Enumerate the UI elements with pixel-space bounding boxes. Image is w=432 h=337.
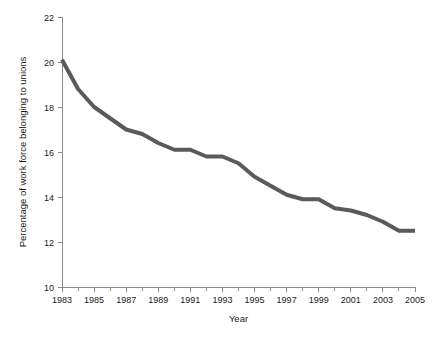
x-axis-tick-label: 2003 <box>373 295 393 305</box>
y-axis-tick-label: 12 <box>44 238 54 248</box>
x-axis-tick-label: 1985 <box>84 295 104 305</box>
x-axis-tick-label: 1995 <box>245 295 265 305</box>
y-axis-tick-label: 20 <box>44 58 54 68</box>
x-axis-tick-label: 1983 <box>52 295 72 305</box>
x-axis-title: Year <box>229 313 248 324</box>
x-axis-tick-label: 1989 <box>148 295 168 305</box>
x-axis-tick-label: 2001 <box>341 295 361 305</box>
chart-background <box>0 0 432 337</box>
x-axis-tick-label: 1999 <box>309 295 329 305</box>
y-axis-tick-label: 16 <box>44 148 54 158</box>
x-axis-tick-label: 1987 <box>116 295 136 305</box>
x-axis-tick-label: 2005 <box>405 295 425 305</box>
union-membership-line-chart: 10121416182022 1983198519871989199119931… <box>0 0 432 337</box>
x-axis-tick-label: 1993 <box>212 295 232 305</box>
y-axis-tick-label: 10 <box>44 283 54 293</box>
y-axis-tick-label: 14 <box>44 193 54 203</box>
y-axis-tick-label: 22 <box>44 13 54 23</box>
y-axis-title: Percentage of work force belonging to un… <box>17 56 28 247</box>
y-axis-tick-label: 18 <box>44 103 54 113</box>
x-axis-tick-label: 1997 <box>277 295 297 305</box>
chart-canvas: 10121416182022 1983198519871989199119931… <box>0 0 432 337</box>
x-axis-tick-label: 1991 <box>180 295 200 305</box>
